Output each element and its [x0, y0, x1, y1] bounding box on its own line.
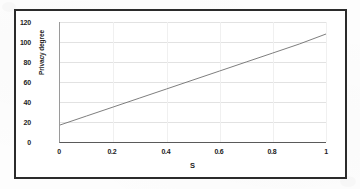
- x-tick-label: 0.4: [151, 148, 181, 155]
- x-tick-label: 0: [44, 148, 74, 155]
- plot-area: [59, 22, 326, 143]
- y-tick-label: 100: [5, 39, 31, 46]
- y-tick-label: 60: [5, 79, 31, 86]
- y-tick-label: 40: [5, 99, 31, 106]
- y-tick-label: 20: [5, 119, 31, 126]
- x-tick-label: 0.8: [257, 148, 287, 155]
- series-line-chart: [60, 22, 326, 142]
- series-line-privacy-degree: [60, 34, 326, 125]
- x-tick-label: 1: [311, 148, 341, 155]
- y-tick-label: 80: [5, 59, 31, 66]
- y-tick-label: 0: [5, 139, 31, 146]
- x-tick-label: 0.2: [97, 148, 127, 155]
- x-axis-title: S: [59, 161, 326, 170]
- y-axis-title: Privacy degree: [38, 18, 45, 88]
- gridline-vertical: [326, 22, 327, 142]
- chart-canvas: 120 100 80 60 40 20 0 Privacy degree: [16, 11, 345, 177]
- scanned-page-background: 120 100 80 60 40 20 0 Privacy degree: [0, 0, 360, 189]
- y-tick-label: 120: [5, 19, 31, 26]
- x-tick-label: 0.6: [204, 148, 234, 155]
- figure-frame: 120 100 80 60 40 20 0 Privacy degree: [14, 9, 347, 179]
